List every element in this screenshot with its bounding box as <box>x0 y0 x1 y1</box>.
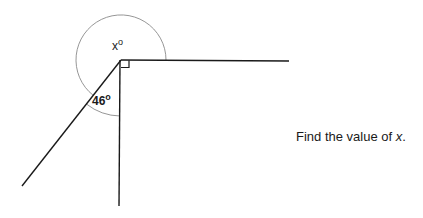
reflex-angle-arc <box>76 15 166 95</box>
geometry-figure: xo 46o <box>0 0 423 218</box>
question-prefix: Find the value of <box>296 129 396 144</box>
question-text: Find the value of x. <box>296 129 406 144</box>
slanted-ray <box>22 60 121 186</box>
vertical-ray <box>119 60 120 206</box>
horizontal-ray <box>121 60 289 61</box>
right-angle-marker <box>121 61 129 68</box>
question-suffix: . <box>402 129 406 144</box>
reflex-angle-label: xo <box>112 37 123 53</box>
acute-angle-label: 46o <box>92 92 111 108</box>
